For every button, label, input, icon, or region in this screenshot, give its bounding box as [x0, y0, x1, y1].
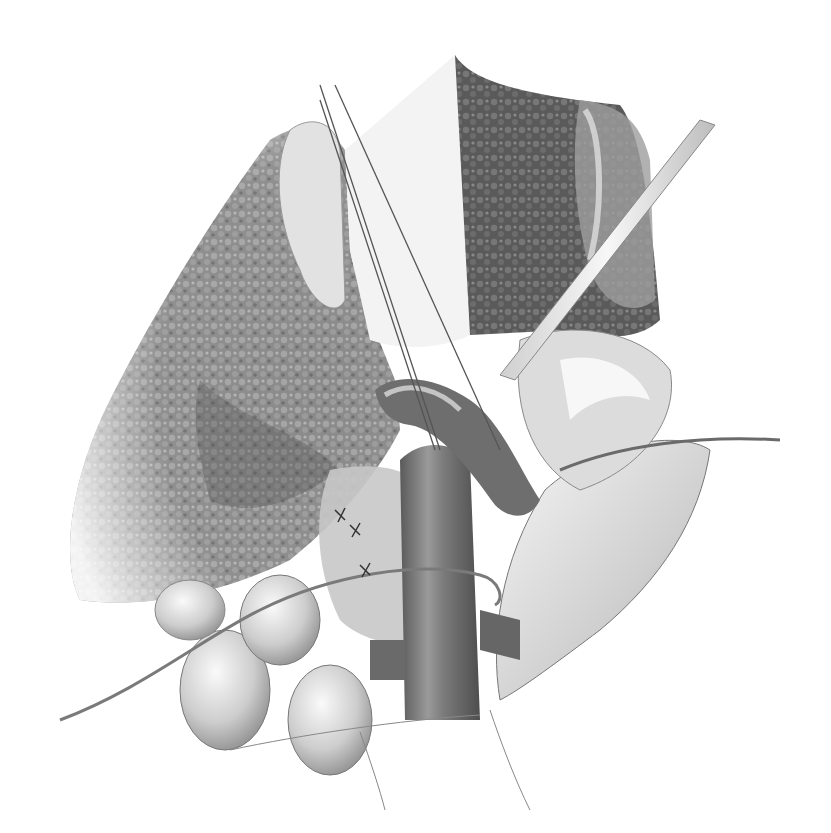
surgical-illustration: [0, 0, 831, 833]
liver-right-lobe: [436, 55, 660, 337]
central-tissue: [345, 55, 470, 347]
drape-edges: [230, 710, 530, 810]
illustration-canvas: Grayscale pencil surgical illustration o…: [0, 0, 831, 833]
